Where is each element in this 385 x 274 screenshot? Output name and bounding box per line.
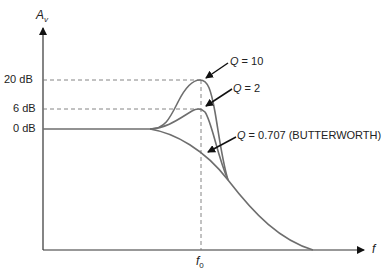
annotation-q10: Q = 10: [230, 55, 263, 67]
tick-20db: 20 dB: [4, 73, 33, 85]
arrow-q10: [206, 63, 228, 78]
q707-value: = 0.707 (BUTTERWORTH): [246, 129, 382, 141]
annotation-q2: Q = 2: [233, 82, 260, 94]
curve-q10: [150, 80, 228, 180]
q10-value: = 10: [239, 55, 264, 67]
q2-value: = 2: [242, 82, 261, 94]
annotation-q707: Q = 0.707 (BUTTERWORTH): [237, 129, 381, 141]
tick-0db: 0 dB: [13, 122, 36, 134]
f0-label: f0: [196, 254, 204, 268]
q-symbol: Q: [237, 129, 246, 141]
x-axis-label: f: [372, 242, 375, 256]
y-axis-label: Av: [36, 8, 48, 22]
q-symbol: Q: [233, 82, 242, 94]
tick-6db: 6 dB: [13, 102, 36, 114]
y-axis-label-main: A: [36, 8, 44, 22]
y-axis-label-sub: v: [44, 15, 48, 24]
curve-butterworth: [150, 129, 313, 250]
f0-label-sub: 0: [199, 261, 203, 270]
q-symbol: Q: [230, 55, 239, 67]
